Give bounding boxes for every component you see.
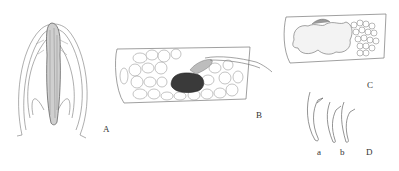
panel-b-drawing (115, 47, 272, 103)
dark-gonad (171, 73, 204, 93)
subpanel-label-b: b (340, 148, 345, 157)
panel-label-b: B (256, 111, 262, 120)
panel-label-c: C (367, 81, 373, 90)
panel-label-a: A (103, 125, 110, 134)
panel-c-drawing (284, 14, 386, 63)
panel-d-drawing (307, 92, 355, 142)
figure-drawing (0, 0, 399, 171)
panel-a-body (36, 23, 68, 125)
subpanel-label-a: a (317, 148, 321, 157)
panel-label-d: D (366, 148, 373, 157)
